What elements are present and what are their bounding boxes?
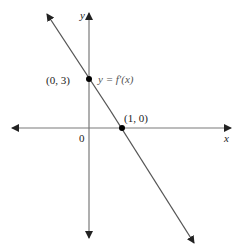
x-axis-label: x (224, 133, 229, 144)
point-label-0-3: (0, 3) (46, 75, 70, 86)
function-label: y = f′(x) (98, 74, 133, 85)
graph-canvas (0, 0, 236, 250)
point-0-3 (86, 76, 92, 82)
point-label-1-0: (1, 0) (124, 113, 148, 124)
point-1-0 (119, 125, 125, 131)
origin-label: 0 (79, 133, 85, 144)
y-axis-label: y (80, 10, 85, 21)
function-line (47, 14, 110, 110)
